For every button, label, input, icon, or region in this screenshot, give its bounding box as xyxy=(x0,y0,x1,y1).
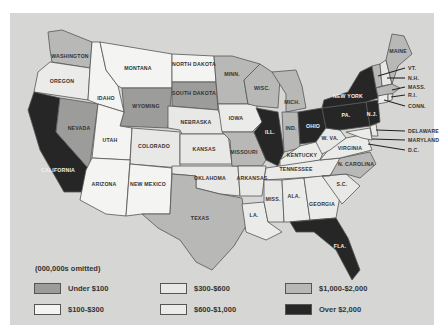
svg-text:NEBRASKA: NEBRASKA xyxy=(181,119,212,125)
legend-label: Under $100 xyxy=(68,284,108,293)
legend-title: (000,000s omitted) xyxy=(35,264,100,273)
svg-text:ALA.: ALA. xyxy=(288,193,301,199)
svg-text:ARKANSAS: ARKANSAS xyxy=(237,175,268,181)
state-new-mexico xyxy=(126,164,172,216)
state-florida xyxy=(290,218,360,280)
state-north-dakota xyxy=(172,54,216,82)
svg-text:IDAHO: IDAHO xyxy=(97,95,115,101)
svg-text:KANSAS: KANSAS xyxy=(192,146,215,152)
svg-text:WYOMING: WYOMING xyxy=(132,103,159,109)
svg-text:OHIO: OHIO xyxy=(306,123,320,129)
svg-text:MICH.: MICH. xyxy=(284,99,300,105)
svg-text:N.H.: N.H. xyxy=(408,75,420,81)
legend-item-100-300: $100-$300 xyxy=(34,304,104,315)
svg-text:NEW YORK: NEW YORK xyxy=(333,93,363,99)
legend-label: $600-$1,000 xyxy=(194,305,236,314)
svg-text:N. CAROLINA: N. CAROLINA xyxy=(338,161,374,167)
legend-swatch xyxy=(34,304,61,315)
svg-text:COLORADO: COLORADO xyxy=(138,143,170,149)
svg-text:D.C.: D.C. xyxy=(408,147,420,153)
svg-text:CALIFORNIA: CALIFORNIA xyxy=(41,167,75,173)
svg-text:ARIZONA: ARIZONA xyxy=(91,181,116,187)
svg-text:SOUTH DAKOTA: SOUTH DAKOTA xyxy=(172,90,216,96)
svg-text:N.J.: N.J. xyxy=(367,111,378,117)
state-arkansas xyxy=(238,166,266,196)
svg-text:KENTUCKY: KENTUCKY xyxy=(287,152,318,158)
legend-label: Over $2,000 xyxy=(319,305,361,314)
legend-item-300-600: $300-$600 xyxy=(160,283,230,294)
svg-text:WASHINGTON: WASHINGTON xyxy=(51,53,89,59)
svg-text:W. VA.: W. VA. xyxy=(322,135,339,141)
legend-swatch xyxy=(160,304,187,315)
svg-text:IND.: IND. xyxy=(285,125,297,131)
svg-text:OREGON: OREGON xyxy=(50,78,74,84)
legend-swatch xyxy=(285,304,312,315)
state-rhode-island xyxy=(388,94,393,101)
svg-text:VIRGINIA: VIRGINIA xyxy=(338,145,363,151)
svg-text:PA.: PA. xyxy=(342,112,351,118)
svg-text:UTAH: UTAH xyxy=(103,137,118,143)
svg-text:TENNESSEE: TENNESSEE xyxy=(279,166,313,172)
legend-swatch xyxy=(34,283,61,294)
svg-text:MONTANA: MONTANA xyxy=(124,65,152,71)
svg-text:TEXAS: TEXAS xyxy=(191,215,210,221)
svg-text:VT.: VT. xyxy=(408,65,416,71)
svg-text:CONN.: CONN. xyxy=(408,103,426,109)
svg-text:MAINE: MAINE xyxy=(389,48,407,54)
svg-text:NEVADA: NEVADA xyxy=(68,125,91,131)
svg-text:DELAWARE: DELAWARE xyxy=(408,128,439,134)
legend-item-under-100: Under $100 xyxy=(34,283,108,294)
svg-text:WISC.: WISC. xyxy=(254,85,270,91)
svg-text:ILL.: ILL. xyxy=(265,129,275,135)
legend-swatch xyxy=(285,283,312,294)
state-south-dakota xyxy=(172,82,218,110)
legend-item-over-2000: Over $2,000 xyxy=(285,304,361,315)
legend-label: $100-$300 xyxy=(68,305,104,314)
svg-text:S.C.: S.C. xyxy=(337,181,348,187)
svg-text:OKLAHOMA: OKLAHOMA xyxy=(194,175,226,181)
legend-label: $300-$600 xyxy=(194,284,230,293)
svg-text:FLA.: FLA. xyxy=(334,243,347,249)
legend-item-1000-2000: $1,000-$2,000 xyxy=(285,283,367,294)
callout-labels: VT. N.H. MASS. R.I. CONN. DELAWARE MARYL… xyxy=(408,65,439,153)
state-connecticut xyxy=(378,94,388,104)
state-arizona xyxy=(80,158,130,216)
svg-text:MISSOURI: MISSOURI xyxy=(230,149,258,155)
svg-text:MARYLAND: MARYLAND xyxy=(408,137,439,143)
svg-text:GEORGIA: GEORGIA xyxy=(309,201,335,207)
svg-text:R.I.: R.I. xyxy=(408,92,417,98)
svg-text:NEW MEXICO: NEW MEXICO xyxy=(130,181,166,187)
svg-text:MISS.: MISS. xyxy=(265,196,280,202)
svg-text:NORTH DAKOTA: NORTH DAKOTA xyxy=(172,61,216,67)
legend-label: $1,000-$2,000 xyxy=(319,284,367,293)
svg-text:MASS.: MASS. xyxy=(408,84,426,90)
legend-swatch xyxy=(160,283,187,294)
legend-item-600-1000: $600-$1,000 xyxy=(160,304,236,315)
svg-text:IOWA: IOWA xyxy=(229,115,244,121)
state-indiana xyxy=(282,112,300,152)
svg-text:LA.: LA. xyxy=(250,212,259,218)
svg-text:MINN.: MINN. xyxy=(224,71,240,77)
